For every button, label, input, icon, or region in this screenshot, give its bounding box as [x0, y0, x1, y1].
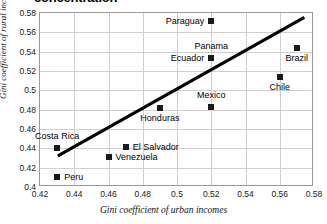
- data-point-marker[interactable]: [294, 45, 300, 51]
- trend-line: [40, 13, 312, 185]
- data-point-label: Venezuela: [116, 152, 158, 162]
- x-axis-tick-label: 0.54: [237, 189, 254, 199]
- gridline-vertical: [74, 13, 75, 185]
- x-axis-tick-label: 0.42: [32, 189, 49, 199]
- y-axis-tick-label: 0.58: [19, 8, 36, 18]
- gridline-horizontal: [40, 168, 312, 169]
- gridline-vertical: [177, 13, 178, 185]
- data-point-marker[interactable]: [123, 144, 129, 150]
- y-axis-tick-label: 0.42: [19, 163, 36, 173]
- x-axis-tick-label: 0.44: [66, 189, 83, 199]
- data-point-label: Paraguay: [166, 16, 205, 26]
- x-axis-title: Gini coefficient of urban incomes: [0, 205, 327, 215]
- gridline-horizontal: [40, 129, 312, 130]
- data-point-marker[interactable]: [106, 154, 112, 160]
- x-axis-tick-label: 0.5: [171, 189, 183, 199]
- chart-page: concentration Gini coefficient of rural …: [0, 0, 327, 224]
- data-point-marker[interactable]: [208, 18, 214, 24]
- y-axis-tick-label: 0.48: [19, 105, 36, 115]
- gridline-vertical: [280, 13, 281, 185]
- chart-title: concentration: [34, 0, 234, 5]
- data-point-label: Chile: [269, 82, 290, 92]
- data-point-label: Ecuador: [171, 53, 205, 63]
- y-axis-tick-label: 0.54: [19, 47, 36, 57]
- gridline-vertical: [246, 13, 247, 185]
- data-point-marker[interactable]: [208, 104, 214, 110]
- data-point-marker[interactable]: [277, 74, 283, 80]
- data-point-marker[interactable]: [54, 174, 60, 180]
- data-point-label: Panama: [194, 41, 228, 51]
- gridline-horizontal: [40, 32, 312, 33]
- data-point-label: Brazil: [286, 53, 309, 63]
- gridline-horizontal: [40, 71, 312, 72]
- y-axis-tick-label: 0.56: [19, 27, 36, 37]
- plot-area: 0.40.420.440.460.480.50.520.540.560.58 0…: [39, 12, 313, 186]
- x-axis-tick-label: 0.56: [271, 189, 288, 199]
- data-point-marker[interactable]: [157, 105, 163, 111]
- y-axis-tick-label: 0.44: [19, 143, 36, 153]
- x-axis-tick-label: 0.48: [134, 189, 151, 199]
- data-point-label: Peru: [64, 172, 83, 182]
- data-point-marker[interactable]: [54, 145, 60, 151]
- data-point-marker[interactable]: [208, 55, 214, 61]
- x-axis-tick-label: 0.46: [100, 189, 117, 199]
- y-axis-title: Gini coefficient of rural incomes: [0, 0, 8, 99]
- x-axis-tick-label: 0.58: [306, 189, 323, 199]
- y-axis-tick-label: 0.52: [19, 66, 36, 76]
- gridline-horizontal: [40, 110, 312, 111]
- x-axis-tick-label: 0.52: [203, 189, 220, 199]
- y-axis-tick-label: 0.5: [24, 85, 36, 95]
- y-axis-tick-label: 0.46: [19, 124, 36, 134]
- data-point-label: Mexico: [197, 90, 226, 100]
- data-point-label: Costa Rica: [35, 131, 79, 141]
- data-point-label: Honduras: [140, 113, 179, 123]
